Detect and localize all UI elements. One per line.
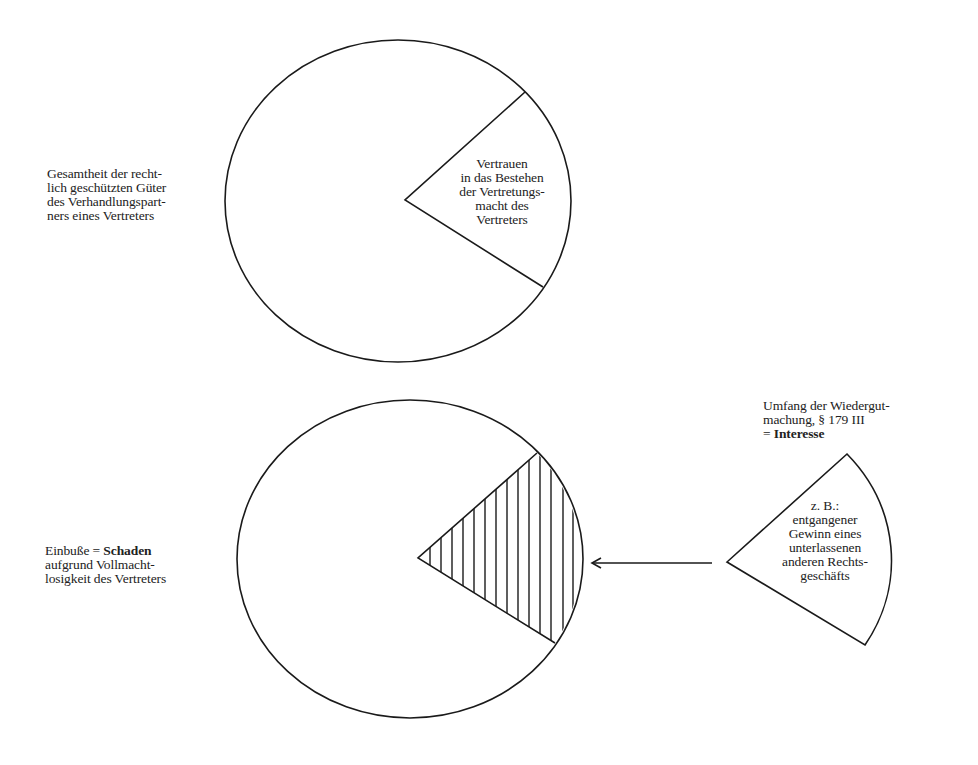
label-line: z. B.: bbox=[770, 499, 880, 513]
damage-term: Schaden bbox=[103, 543, 151, 558]
label-line: Einbuße = Schaden bbox=[45, 544, 166, 558]
interest-term: Interesse bbox=[774, 426, 825, 441]
label-line: unterlassenen bbox=[770, 541, 880, 555]
label-line: = Interesse bbox=[763, 427, 890, 441]
sector-heading: Umfang der Wiedergut- machung, § 179 III… bbox=[763, 399, 890, 441]
interest-prefix: = bbox=[763, 426, 774, 441]
label-line: machung, § 179 III bbox=[763, 413, 890, 427]
label-line: macht des bbox=[452, 199, 552, 213]
label-line: lich geschützten Güter bbox=[47, 181, 166, 195]
damage-prefix: Einbuße = bbox=[45, 543, 103, 558]
label-line: anderen Rechts- bbox=[770, 555, 880, 569]
label-line: aufgrund Vollmacht- bbox=[45, 558, 166, 572]
label-line: Vertrauen bbox=[452, 157, 552, 171]
label-line: entgangener bbox=[770, 513, 880, 527]
label-line: ners eines Vertreters bbox=[47, 209, 166, 223]
label-line: Gewinn eines bbox=[770, 527, 880, 541]
label-line: des Verhandlungspart- bbox=[47, 195, 166, 209]
top-circle-label: Gesamtheit der recht- lich geschützten G… bbox=[47, 167, 166, 223]
top-slice-label: Vertrauen in das Bestehen der Vertretung… bbox=[452, 157, 552, 227]
hatched-damage-slice bbox=[430, 440, 573, 660]
sector-label: z. B.: entgangener Gewinn eines unterlas… bbox=[770, 499, 880, 583]
label-line: Gesamtheit der recht- bbox=[47, 167, 166, 181]
label-line: losigkeit des Vertreters bbox=[45, 572, 166, 586]
label-line: der Vertretungs- bbox=[452, 185, 552, 199]
label-line: Umfang der Wiedergut- bbox=[763, 399, 890, 413]
arrow-left-icon bbox=[592, 558, 712, 568]
bottom-circle-label: Einbuße = Schaden aufgrund Vollmacht- lo… bbox=[45, 544, 166, 586]
label-line: in das Bestehen bbox=[452, 171, 552, 185]
label-line: geschäfts bbox=[770, 569, 880, 583]
label-line: Vertreters bbox=[452, 213, 552, 227]
bottom-circle bbox=[237, 400, 583, 718]
diagram-canvas bbox=[0, 0, 978, 765]
